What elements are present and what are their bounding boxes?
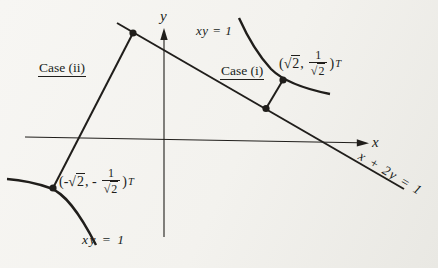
y-axis-label: y xyxy=(160,8,167,25)
paren-close: ) xyxy=(122,174,127,189)
fraction-denominator: √2 xyxy=(102,180,121,196)
case-i-segment xyxy=(266,80,283,109)
foot-point-case-i xyxy=(262,105,269,112)
case-i-label: Case (i) xyxy=(220,64,264,80)
transpose-superscript: T xyxy=(335,58,341,70)
point-label-lower: (-√2, -1√2)T xyxy=(59,167,134,196)
comma-minus: , - xyxy=(85,174,97,189)
figure-hyperbola-line-diagram: y x xy = 1 xy = 1 x + 2y = 1 Case (ii) C… xyxy=(0,0,438,268)
fraction: 1√2 xyxy=(309,49,328,78)
sqrt-sign: √ xyxy=(68,174,76,189)
transpose-superscript: T xyxy=(128,176,134,188)
case-ii-segment xyxy=(53,33,133,188)
sqrt-sign: √ xyxy=(284,56,292,71)
hyperbola-top-equation: xy = 1 xyxy=(196,24,232,38)
sqrt-arg: 2 xyxy=(317,63,325,78)
fraction: 1√2 xyxy=(102,167,121,196)
sqrt-arg: 2 xyxy=(76,173,85,189)
point-label-upper: (√2,1√2)T xyxy=(279,49,341,78)
x-axis-label: x xyxy=(372,134,379,151)
comma: , xyxy=(300,56,304,71)
foot-point-case-ii xyxy=(129,29,136,36)
fraction-numerator: 1 xyxy=(102,167,121,180)
hyperbola-bottom-equation: xy = 1 xyxy=(82,233,126,248)
paren-close: ) xyxy=(329,56,334,71)
y-axis-arrow-icon xyxy=(160,28,167,40)
paren-open: (- xyxy=(59,174,68,189)
x-axis-arrow-icon xyxy=(357,139,369,146)
case-ii-label: Case (ii) xyxy=(38,61,86,77)
x-axis xyxy=(25,137,358,143)
sqrt-arg: 2 xyxy=(110,181,118,196)
fraction-numerator: 1 xyxy=(309,49,328,62)
hyperbola-point-lower xyxy=(49,184,56,191)
fraction-denominator: √2 xyxy=(309,62,328,78)
sqrt-arg: 2 xyxy=(291,55,300,71)
